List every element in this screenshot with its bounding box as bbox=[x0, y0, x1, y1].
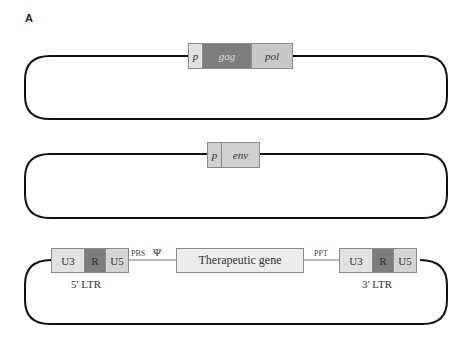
pbs-label: PBS bbox=[131, 249, 145, 258]
therapeutic-gene-label: Therapeutic gene bbox=[199, 253, 282, 268]
u5-label: U5 bbox=[110, 255, 123, 267]
u3-label: U3 bbox=[349, 255, 362, 267]
env-segment: env bbox=[221, 142, 260, 168]
ltr3-caption: 3' LTR bbox=[362, 278, 392, 290]
r-label: R bbox=[91, 255, 98, 267]
therapeutic-gene-box: Therapeutic gene bbox=[176, 248, 304, 273]
ltr5-u5: U5 bbox=[105, 248, 129, 273]
pol-segment: pol bbox=[251, 43, 293, 69]
u3-label: U3 bbox=[61, 255, 74, 267]
ltr3-u3: U3 bbox=[339, 248, 373, 273]
u5-label: U5 bbox=[398, 255, 411, 267]
ltr5-r: R bbox=[84, 248, 106, 273]
promoter-segment: p bbox=[188, 43, 203, 69]
gag-label: gag bbox=[219, 50, 236, 62]
promoter-segment: p bbox=[207, 142, 222, 168]
ppt-label: PPT bbox=[314, 249, 328, 258]
ltr3-u5: U5 bbox=[393, 248, 417, 273]
pol-label: pol bbox=[265, 50, 279, 62]
psi-label: Ψ bbox=[153, 246, 161, 258]
gag-segment: gag bbox=[202, 43, 252, 69]
env-label: env bbox=[233, 149, 248, 161]
ltr3-r: R bbox=[372, 248, 394, 273]
promoter-label: p bbox=[212, 149, 218, 161]
ltr5-u3: U3 bbox=[51, 248, 85, 273]
promoter-label: p bbox=[193, 50, 199, 62]
ltr5-caption: 5' LTR bbox=[71, 278, 101, 290]
r-label: R bbox=[379, 255, 386, 267]
